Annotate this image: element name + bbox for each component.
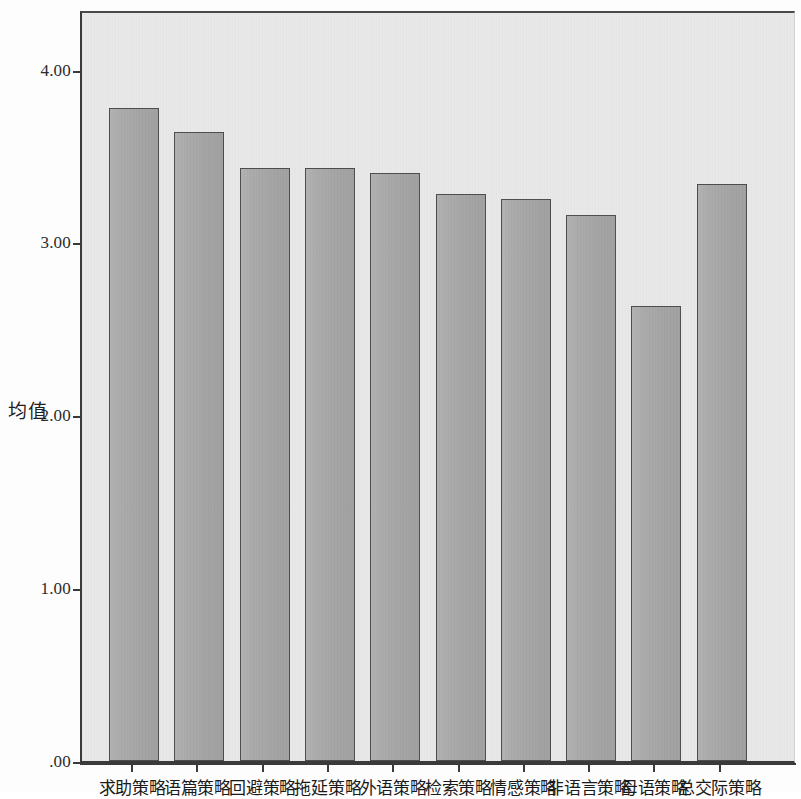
x-tick-label: 检索策略: [425, 774, 492, 799]
bar: [501, 199, 551, 761]
x-tick-label: 求助策略: [99, 774, 166, 799]
x-tick-mark: [262, 763, 264, 772]
y-tick-mark: [73, 589, 80, 591]
bar: [436, 194, 486, 761]
x-tick-mark: [523, 763, 525, 772]
y-tick-mark: [73, 416, 80, 418]
y-tick-label: 1.00: [40, 579, 71, 599]
y-tick-label: 3.00: [40, 233, 71, 253]
x-tick-label: 拖延策略: [294, 774, 361, 799]
bar: [240, 168, 290, 761]
bar: [305, 168, 355, 761]
x-tick-mark: [719, 763, 721, 772]
y-tick-mark: [73, 71, 80, 73]
bar: [370, 173, 420, 761]
x-tick-label: 语篇策略: [164, 774, 231, 799]
x-tick-mark: [131, 763, 133, 772]
bar: [697, 184, 747, 761]
x-tick-mark: [327, 763, 329, 772]
y-tick-mark: [73, 243, 80, 245]
bar: [174, 132, 224, 761]
bar: [631, 306, 681, 761]
bar: [566, 215, 616, 761]
x-tick-mark: [458, 763, 460, 772]
y-tick-label: 4.00: [40, 61, 71, 81]
bars-layer: [82, 13, 794, 761]
plot-area: [80, 11, 795, 763]
x-tick-mark: [196, 763, 198, 772]
x-tick-mark: [392, 763, 394, 772]
x-axis-baseline: [80, 763, 796, 765]
x-axis: 求助策略语篇策略回避策略拖延策略外语策略检索策略情感策略非语言策略母语策略总交际…: [0, 763, 801, 792]
y-axis-title: 均值: [8, 396, 48, 423]
x-tick-label: 非语言策略: [547, 774, 631, 799]
bar: [109, 108, 159, 761]
x-tick-label: 回避策略: [229, 774, 296, 799]
x-tick-label: 外语策略: [360, 774, 427, 799]
x-tick-mark: [653, 763, 655, 772]
x-tick-label: 总交际策略: [678, 774, 762, 799]
x-tick-mark: [588, 763, 590, 772]
